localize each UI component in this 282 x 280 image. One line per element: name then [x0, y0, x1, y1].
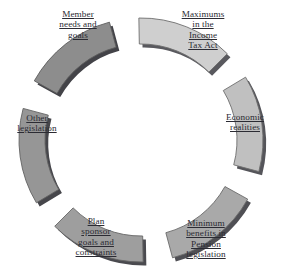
label-line: Other — [6, 113, 68, 123]
label-line: Plan — [64, 216, 128, 226]
label-line: goals and — [64, 237, 128, 247]
label-member-needs-and-goals: Memberneeds andgoals — [46, 9, 110, 40]
label-line: Tax Act — [172, 40, 234, 50]
label-line: legislation — [173, 249, 239, 259]
label-line: Economic — [214, 112, 276, 122]
label-line: needs and — [46, 19, 110, 29]
label-maximums-income-tax-act: Maximumsin theIncomeTax Act — [172, 9, 234, 51]
label-minimum-benefits-pension-legislation: Minimumbenefits inPensionlegislation — [173, 218, 239, 260]
label-line: legislation — [6, 123, 68, 133]
label-line: benefits in — [173, 228, 239, 238]
label-economic-realities: Economicrealities — [214, 112, 276, 133]
label-line: constraints — [64, 247, 128, 257]
label-line: in the — [172, 19, 234, 29]
label-other-legislation: Otherlegislation — [6, 113, 68, 134]
label-line: Pension — [173, 239, 239, 249]
diagram-canvas: Memberneeds andgoals Maximumsin theIncom… — [0, 0, 282, 280]
label-line: Minimum — [173, 218, 239, 228]
label-line: Income — [172, 30, 234, 40]
label-line: Maximums — [172, 9, 234, 19]
label-line: sponsor — [64, 226, 128, 236]
label-line: realities — [214, 122, 276, 132]
segment-wheel — [0, 0, 282, 280]
label-plan-sponsor-goals-and-constraints: Plansponsorgoals andconstraints — [64, 216, 128, 258]
label-line: goals — [46, 30, 110, 40]
label-line: Member — [46, 9, 110, 19]
